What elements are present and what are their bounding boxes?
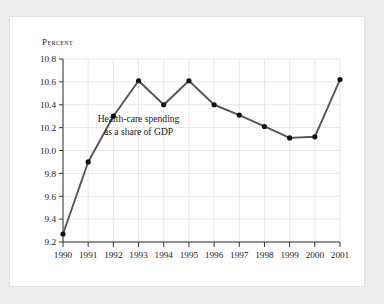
series-data-point (287, 135, 292, 140)
x-axis-tick-labels: 1990199119921993199419951996199719981999… (54, 250, 350, 260)
series-data-point (337, 77, 342, 82)
page-background: Percent 9.29.49.69.810.010.210.410.610.8… (0, 0, 384, 304)
x-tick-label: 1994 (155, 250, 174, 260)
y-axis-tick-labels: 9.29.49.69.810.010.210.410.610.8 (40, 54, 56, 247)
y-tick-label: 10.0 (40, 146, 56, 156)
horizontal-gridlines (63, 59, 340, 242)
x-tick-label: 2000 (306, 250, 325, 260)
x-axis-ticks (63, 242, 340, 247)
series-data-point (136, 78, 141, 83)
x-tick-label: 1992 (104, 250, 123, 260)
y-axis-title: Percent (42, 37, 73, 47)
y-tick-label: 10.2 (40, 123, 56, 133)
series-data-point (86, 159, 91, 164)
series-markers (60, 77, 342, 237)
x-tick-label: 1991 (79, 250, 98, 260)
x-tick-label: 1995 (180, 250, 199, 260)
annotation-line-1: Health-care spending (98, 113, 180, 124)
series-data-point (161, 102, 166, 107)
series-data-point (60, 231, 65, 236)
annotation-line-2: as a share of GDP (104, 126, 173, 137)
y-tick-label: 10.4 (40, 100, 56, 110)
x-tick-label: 1998 (255, 250, 274, 260)
y-tick-label: 9.4 (45, 214, 57, 224)
x-tick-label: 1999 (280, 250, 299, 260)
line-chart-figure: Percent 9.29.49.69.810.010.210.410.610.8… (10, 17, 364, 286)
series-data-point (237, 112, 242, 117)
chart-card: Percent 9.29.49.69.810.010.210.410.610.8… (10, 17, 364, 286)
y-tick-label: 10.6 (40, 77, 56, 87)
chart-canvas: Percent 9.29.49.69.810.010.210.410.610.8… (10, 17, 364, 286)
series-data-point (312, 134, 317, 139)
y-tick-label: 10.8 (40, 54, 56, 64)
x-tick-label: 1993 (129, 250, 148, 260)
y-tick-label: 9.8 (45, 169, 57, 179)
series-line-health-care-spending (63, 80, 340, 234)
x-tick-label: 2001 (331, 250, 350, 260)
series-data-point (186, 78, 191, 83)
series-data-point (262, 124, 267, 129)
y-tick-label: 9.2 (45, 237, 57, 247)
y-tick-label: 9.6 (45, 192, 57, 202)
x-tick-label: 1996 (205, 250, 224, 260)
series-data-point (211, 102, 216, 107)
y-axis-ticks (59, 59, 63, 242)
x-tick-label: 1990 (54, 250, 73, 260)
x-tick-label: 1997 (230, 250, 249, 260)
